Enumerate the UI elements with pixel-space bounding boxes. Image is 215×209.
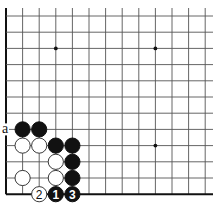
black-stone-icon [48,138,63,153]
black-stone: 3 [65,187,80,202]
white-stone [15,138,30,153]
white-stone [48,170,63,185]
move-number-label: 1 [52,188,59,202]
white-stone: 2 [32,187,47,202]
white-stone-icon [48,154,63,169]
point-label-a: a [2,121,9,136]
black-stone-icon [65,154,80,169]
white-stone-icon [32,138,47,153]
black-stone [65,170,80,185]
go-board-diagram: 213 a [0,0,215,209]
move-number-label: 2 [36,188,43,202]
black-stone [15,122,30,137]
black-stone: 1 [48,187,63,202]
star-point-icon [154,144,158,148]
black-stone [65,154,80,169]
board-grid [6,8,213,194]
white-stone [15,170,30,185]
move-number-label: 3 [69,188,76,202]
black-stone-icon [32,122,47,137]
white-stone [32,138,47,153]
white-stone-icon [15,170,30,185]
black-stone [65,138,80,153]
black-stone-icon [65,138,80,153]
white-stone-icon [15,138,30,153]
star-point-icon [54,47,58,51]
black-stone-icon [65,170,80,185]
white-stone-icon [48,170,63,185]
black-stone [32,122,47,137]
black-stone-icon [15,122,30,137]
point-labels: a [1,121,9,136]
black-stone [48,138,63,153]
star-point-icon [154,47,158,51]
white-stone [48,154,63,169]
